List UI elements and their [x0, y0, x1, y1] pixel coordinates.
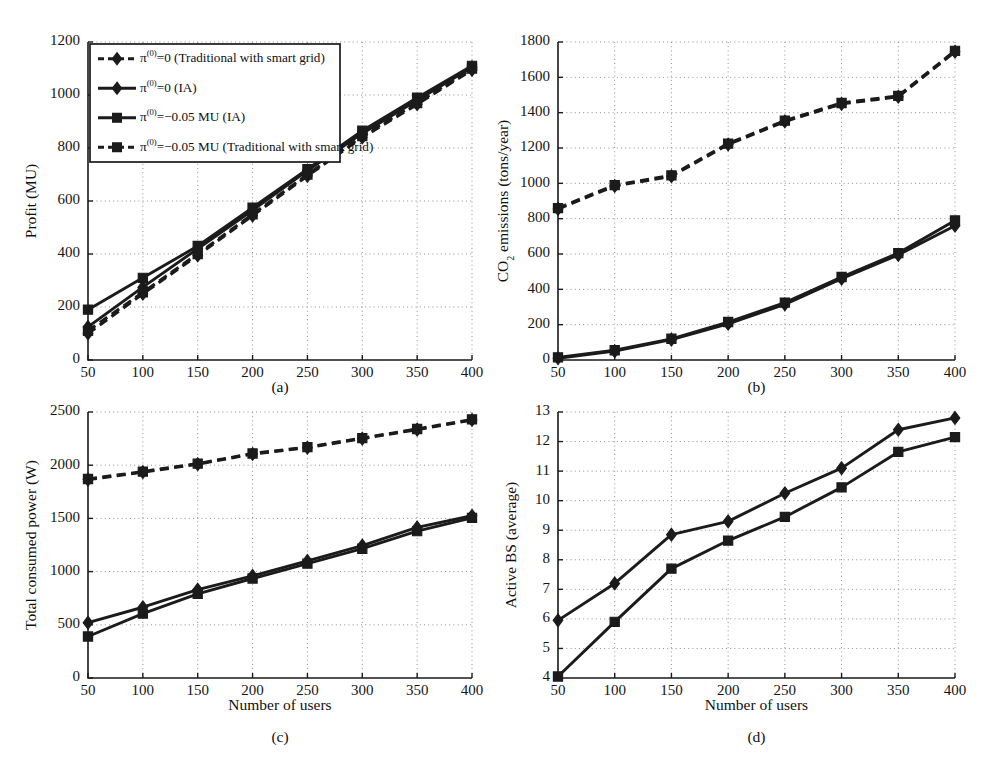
data-point-marker	[412, 521, 422, 534]
series-1	[83, 63, 477, 339]
data-point-marker	[193, 242, 203, 255]
data-point-marker	[553, 352, 563, 365]
x-tick-label: 350	[406, 682, 429, 698]
series-3	[83, 509, 477, 629]
data-point-marker	[780, 298, 789, 307]
data-point-marker	[248, 210, 257, 219]
y-axis-title: CO2 emissions (tons/year)	[494, 120, 516, 283]
y-tick-label: 800	[58, 138, 81, 154]
data-point-marker	[303, 164, 313, 177]
y-tick-label: 1200	[520, 138, 550, 154]
data-point-marker	[248, 574, 257, 583]
x-tick-label: 350	[406, 364, 429, 380]
data-point-marker	[138, 288, 147, 297]
grid-lines	[558, 42, 955, 360]
data-point-marker	[553, 203, 562, 212]
x-tick-label: 100	[132, 682, 155, 698]
data-point-marker	[610, 617, 619, 626]
data-point-marker	[610, 346, 619, 355]
y-tick-label: 1800	[520, 32, 550, 48]
data-point-marker	[780, 298, 790, 311]
data-point-marker	[358, 539, 368, 552]
data-point-marker	[83, 321, 93, 334]
x-tick-label: 250	[774, 682, 797, 698]
data-point-marker	[950, 216, 959, 225]
data-point-marker	[412, 98, 422, 111]
data-point-marker	[610, 345, 620, 358]
series-4	[553, 216, 959, 362]
y-tick-label: 8	[543, 550, 551, 566]
x-tick-label: 100	[603, 364, 626, 380]
data-point-marker	[837, 483, 846, 492]
axes: 4567891011121350100150200250300350400	[535, 402, 966, 698]
x-tick-label: 400	[944, 682, 967, 698]
x-tick-label: 400	[461, 364, 484, 380]
legend-item-label: π(0)=−0.05 MU (Traditional with smart gr…	[140, 137, 373, 154]
y-tick-label: 2500	[50, 402, 80, 418]
y-tick-label: 4	[543, 668, 551, 684]
data-point-marker	[467, 414, 477, 427]
legend-item-label: π(0)=0 (IA)	[140, 78, 197, 95]
data-point-marker	[553, 353, 562, 362]
y-tick-label: 1000	[520, 174, 550, 190]
series-group	[83, 414, 477, 641]
y-tick-label: 400	[528, 280, 551, 296]
data-point-marker	[412, 423, 422, 436]
data-point-marker	[467, 415, 476, 424]
panel-caption: (a)	[271, 378, 288, 396]
series-group	[553, 412, 960, 682]
data-point-marker	[303, 441, 313, 454]
x-tick-label: 250	[296, 364, 319, 380]
data-point-marker	[358, 433, 367, 442]
x-tick-label: 100	[132, 364, 155, 380]
legend-marker-square-icon	[113, 113, 122, 122]
data-point-marker	[610, 181, 619, 190]
x-tick-label: 200	[241, 364, 264, 380]
x-axis-title: Number of users	[705, 696, 808, 713]
legend-marker-diamond-icon	[112, 53, 121, 65]
data-point-marker	[837, 272, 847, 285]
panel-caption: (b)	[747, 378, 765, 396]
data-point-marker	[138, 467, 147, 476]
y-tick-label: 1400	[520, 103, 550, 119]
data-point-marker	[467, 63, 477, 76]
legend: π(0)=0 (Traditional with smart grid)π(0)…	[90, 44, 373, 162]
legend-item-ia-pi005: π(0)=−0.05 MU (IA)	[98, 107, 245, 124]
series-3	[83, 61, 476, 314]
series-1	[83, 414, 477, 486]
data-point-marker	[248, 204, 258, 217]
panel-caption: (c)	[271, 728, 288, 746]
data-point-marker	[553, 614, 563, 627]
y-tick-label: 600	[528, 244, 551, 260]
data-point-marker	[83, 327, 93, 340]
x-tick-label: 250	[296, 682, 319, 698]
legend-item-label: π(0)=−0.05 MU (IA)	[140, 107, 245, 124]
data-point-marker	[724, 139, 733, 148]
grid-lines	[558, 412, 955, 678]
series-1	[553, 412, 960, 627]
series-2	[553, 46, 959, 212]
data-point-marker	[667, 334, 676, 343]
data-point-marker	[724, 317, 733, 326]
axes: 0200400600800100012001400160018005010015…	[520, 32, 966, 380]
data-point-marker	[950, 433, 959, 442]
x-tick-label: 50	[81, 364, 96, 380]
data-point-marker	[248, 449, 257, 458]
data-point-marker	[303, 169, 313, 182]
x-tick-label: 300	[830, 364, 853, 380]
data-point-marker	[667, 170, 677, 183]
data-point-marker	[894, 249, 904, 262]
data-point-marker	[358, 432, 368, 445]
y-tick-label: 12	[535, 432, 550, 448]
data-point-marker	[837, 98, 846, 107]
y-axis-title: Active BS (average)	[502, 482, 520, 609]
data-point-marker	[193, 458, 203, 471]
data-point-marker	[610, 180, 620, 193]
data-point-marker	[193, 249, 203, 262]
data-point-marker	[413, 98, 422, 107]
data-point-marker	[248, 448, 258, 461]
data-point-marker	[780, 487, 790, 500]
data-point-marker	[83, 474, 92, 483]
data-point-marker	[467, 64, 476, 73]
data-point-marker	[248, 203, 257, 212]
